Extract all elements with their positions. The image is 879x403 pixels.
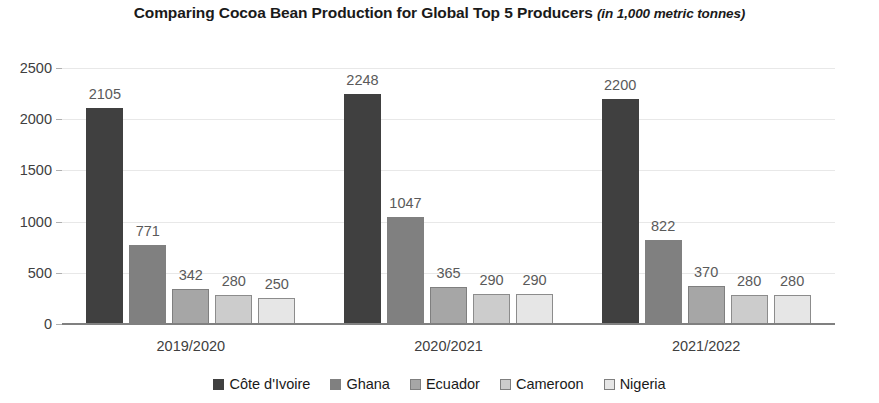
y-axis-tick-label: 0 — [4, 316, 52, 332]
legend-item[interactable]: Ghana — [330, 376, 390, 392]
y-axis-tick-label: 2000 — [4, 111, 52, 127]
y-axis: 05001000150020002500 — [0, 68, 52, 324]
legend-swatch-icon — [213, 379, 224, 390]
bar[interactable] — [172, 289, 209, 324]
title-main-text: Comparing Cocoa Bean Production for Glob… — [134, 4, 597, 21]
x-axis-category-label: 2021/2022 — [672, 338, 741, 354]
legend-swatch-icon — [500, 379, 511, 390]
bar-value-label: 365 — [436, 265, 460, 281]
bar-value-label: 2200 — [604, 77, 636, 93]
bar-value-label: 280 — [780, 273, 804, 289]
x-axis-line — [62, 323, 835, 325]
bar-value-label: 250 — [265, 276, 289, 292]
bar[interactable] — [215, 295, 252, 324]
legend-swatch-icon — [330, 379, 341, 390]
x-axis: 2019/20202020/20212021/2022 — [62, 338, 835, 362]
x-axis-category-label: 2019/2020 — [157, 338, 226, 354]
legend-swatch-icon — [410, 379, 421, 390]
bar[interactable] — [258, 298, 295, 324]
bar[interactable] — [774, 295, 811, 324]
legend-item[interactable]: Nigeria — [604, 376, 666, 392]
bar[interactable] — [387, 217, 424, 324]
bar[interactable] — [430, 287, 467, 324]
bar[interactable] — [516, 294, 553, 324]
bars-layer: 2105771342280250224810473652902902200822… — [62, 68, 835, 324]
legend-label: Côte d'Ivoire — [229, 376, 310, 392]
bar-value-label: 1047 — [389, 195, 421, 211]
bar-value-label: 280 — [222, 273, 246, 289]
legend-label: Ghana — [346, 376, 390, 392]
y-axis-tick-label: 1000 — [4, 214, 52, 230]
bar[interactable] — [86, 108, 123, 324]
y-axis-tick-label: 500 — [4, 265, 52, 281]
bar-value-label: 342 — [179, 267, 203, 283]
legend-label: Cameroon — [516, 376, 584, 392]
bar-value-label: 370 — [694, 264, 718, 280]
bar-value-label: 280 — [737, 273, 761, 289]
bar[interactable] — [602, 99, 639, 324]
bar-value-label: 822 — [651, 218, 675, 234]
bar[interactable] — [473, 294, 510, 324]
bar-value-label: 290 — [522, 272, 546, 288]
x-axis-category-label: 2020/2021 — [414, 338, 483, 354]
bar[interactable] — [344, 94, 381, 324]
legend-item[interactable]: Côte d'Ivoire — [213, 376, 310, 392]
bar-value-label: 2248 — [346, 72, 378, 88]
legend-item[interactable]: Ecuador — [410, 376, 480, 392]
legend-label: Ecuador — [426, 376, 480, 392]
bar-value-label: 771 — [136, 223, 160, 239]
y-axis-tick-label: 2500 — [4, 60, 52, 76]
bar-value-label: 2105 — [89, 86, 121, 102]
bar-value-label: 290 — [479, 272, 503, 288]
bar[interactable] — [731, 295, 768, 324]
bar[interactable] — [688, 286, 725, 324]
bar[interactable] — [645, 240, 682, 324]
page-title: Comparing Cocoa Bean Production for Glob… — [0, 4, 879, 22]
legend-item[interactable]: Cameroon — [500, 376, 584, 392]
legend-swatch-icon — [604, 379, 615, 390]
y-axis-tick-label: 1500 — [4, 162, 52, 178]
legend: Côte d'IvoireGhanaEcuadorCameroonNigeria — [0, 376, 879, 392]
bar[interactable] — [129, 245, 166, 324]
title-units-text: (in 1,000 metric tonnes) — [597, 6, 745, 21]
legend-label: Nigeria — [620, 376, 666, 392]
